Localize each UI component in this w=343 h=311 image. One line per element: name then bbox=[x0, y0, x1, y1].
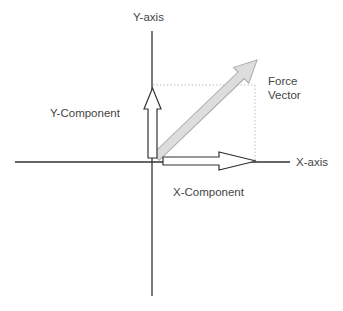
y-axis-label: Y-axis bbox=[133, 10, 164, 24]
x-component-label: X-Component bbox=[173, 185, 244, 199]
force-vector-diagram: Y-axis X-axis Force Vector Y-Component X… bbox=[0, 0, 343, 311]
x-component-arrow bbox=[163, 152, 256, 170]
force-vector-label-line1: Force bbox=[268, 74, 301, 88]
force-vector-arrow bbox=[148, 52, 264, 165]
force-vector-label-line2: Vector bbox=[268, 88, 301, 102]
x-axis-label: X-axis bbox=[296, 155, 328, 169]
force-vector-label: Force Vector bbox=[268, 74, 301, 102]
y-component-label: Y-Component bbox=[50, 106, 120, 120]
diagram-canvas bbox=[0, 0, 343, 311]
y-component-arrow bbox=[144, 88, 161, 158]
